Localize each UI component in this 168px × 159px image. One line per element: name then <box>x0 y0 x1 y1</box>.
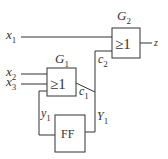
signal-y1-label: y1 <box>40 106 51 123</box>
flipflop-label: FF <box>61 127 75 141</box>
gate-g2-label: G2 <box>117 8 131 26</box>
signal-c1-label: c1 <box>79 84 89 101</box>
gate-g2-symbol: ≥1 <box>115 36 131 52</box>
gate-g1-label: G1 <box>55 51 69 69</box>
signal-c2-label: c2 <box>98 52 108 69</box>
signal-Y1-label: Y1 <box>97 109 108 126</box>
input-x1-label: x1 <box>5 27 16 45</box>
logic-circuit-diagram: x1 G2 ≥1 z c2 G1 ≥1 x2 x3 c1 y1 FF Y1 <box>0 0 168 159</box>
output-z-label: z <box>153 37 158 48</box>
gate-g1-symbol: ≥1 <box>50 76 66 92</box>
